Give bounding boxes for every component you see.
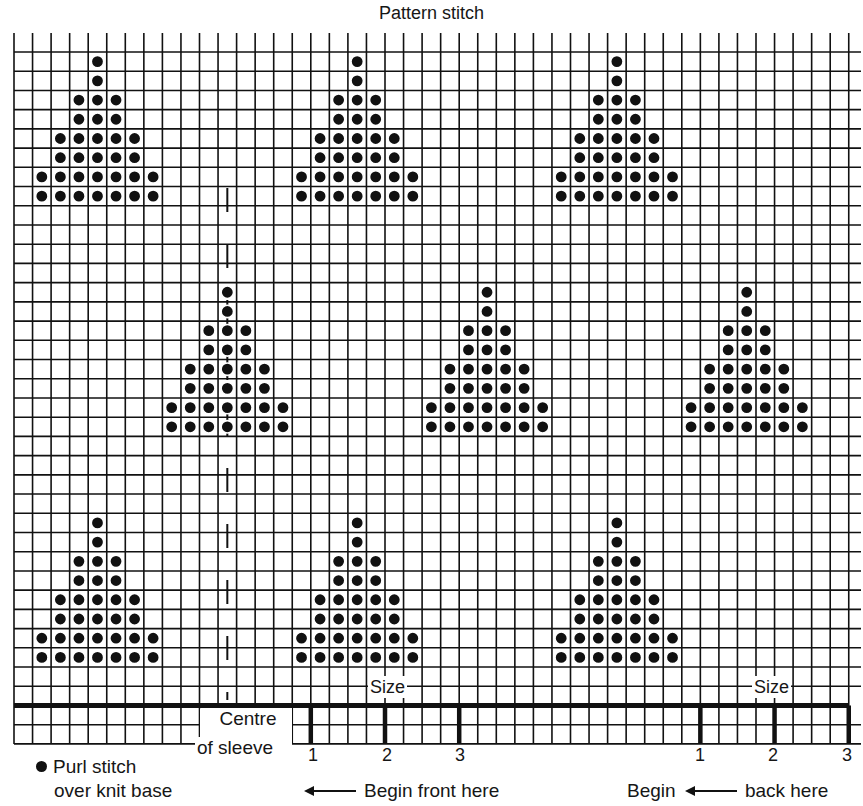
purl-stitch-dot (128, 171, 140, 183)
purl-stitch-dot (388, 132, 400, 144)
purl-stitch-dot (91, 75, 103, 87)
begin-back-text-2: back here (745, 780, 828, 801)
size-number-back-1: 1 (695, 744, 705, 766)
purl-stitch-dot (648, 632, 660, 644)
purl-stitch-dot (258, 382, 270, 394)
purl-stitch-dot (462, 421, 474, 433)
purl-stitch-dot (703, 363, 715, 375)
purl-stitch-dot (240, 382, 252, 394)
purl-stitch-dot (444, 401, 456, 413)
purl-stitch-dot (518, 421, 530, 433)
purl-stitch-dot (518, 382, 530, 394)
purl-stitch-dot (499, 382, 511, 394)
purl-stitch-dot (203, 401, 215, 413)
purl-stitch-dot (91, 536, 103, 548)
purl-stitch-dot (351, 171, 363, 183)
purl-stitch-dot (703, 421, 715, 433)
purl-stitch-dot (555, 651, 567, 663)
purl-stitch-dot (258, 421, 270, 433)
purl-stitch-dot (91, 152, 103, 164)
purl-stitch-dot (91, 555, 103, 567)
purl-stitch-dot (778, 401, 790, 413)
purl-stitch-dot (481, 344, 493, 356)
purl-dot-icon (36, 761, 47, 772)
purl-stitch-dot (351, 152, 363, 164)
purl-stitch-dot (73, 555, 85, 567)
purl-stitch-dot (221, 401, 233, 413)
purl-stitch-dot (110, 632, 122, 644)
purl-stitch-dot (759, 421, 771, 433)
purl-stitch-dot (128, 632, 140, 644)
purl-stitch-dot (91, 632, 103, 644)
purl-stitch-dot (370, 613, 382, 625)
purl-stitch-dot (203, 324, 215, 336)
purl-stitch-dot (91, 517, 103, 529)
purl-stitch-dot (499, 324, 511, 336)
purl-stitch-dot (351, 651, 363, 663)
left-arrow-icon (687, 790, 737, 792)
purl-stitch-dot (110, 152, 122, 164)
purl-stitch-dot (110, 651, 122, 663)
purl-stitch-dot (351, 632, 363, 644)
purl-stitch-dot (574, 594, 586, 606)
purl-stitch-dot (555, 190, 567, 202)
purl-stitch-dot (629, 113, 641, 125)
purl-stitch-dot (499, 401, 511, 413)
purl-stitch-dot (370, 152, 382, 164)
purl-stitch-dot (370, 94, 382, 106)
purl-stitch-dot (165, 421, 177, 433)
purl-stitch-dot (555, 632, 567, 644)
purl-stitch-dot (221, 363, 233, 375)
purl-stitch-dot (611, 132, 623, 144)
purl-stitch-dot (128, 613, 140, 625)
purl-stitch-dot (574, 190, 586, 202)
purl-stitch-dot (741, 382, 753, 394)
purl-stitch-dot (741, 344, 753, 356)
purl-stitch-dot (388, 171, 400, 183)
purl-stitch-dot (54, 171, 66, 183)
purl-stitch-dot (574, 171, 586, 183)
purl-stitch-dot (351, 555, 363, 567)
purl-stitch-dot (203, 344, 215, 356)
purl-stitch-dot (481, 363, 493, 375)
purl-stitch-dot (351, 574, 363, 586)
purl-stitch-dot (147, 632, 159, 644)
purl-stitch-dot (54, 632, 66, 644)
size-label-back: Size (752, 676, 791, 698)
purl-stitch-dot (666, 632, 678, 644)
purl-stitch-dot (444, 363, 456, 375)
purl-stitch-dot (147, 171, 159, 183)
purl-stitch-dot (221, 421, 233, 433)
purl-stitch-dot (221, 286, 233, 298)
purl-stitch-dot (184, 401, 196, 413)
purl-stitch-dot (91, 190, 103, 202)
purl-stitch-dot (110, 190, 122, 202)
purl-stitch-dot (370, 555, 382, 567)
purl-stitch-dot (203, 421, 215, 433)
purl-stitch-dot (110, 94, 122, 106)
purl-stitch-dot (592, 190, 604, 202)
purl-stitch-dot (592, 555, 604, 567)
purl-stitch-dot (351, 132, 363, 144)
purl-stitch-dot (240, 324, 252, 336)
size-number-front-2: 2 (382, 744, 392, 766)
purl-stitch-dot (481, 324, 493, 336)
purl-stitch-dot (240, 344, 252, 356)
purl-stitch-dot (277, 401, 289, 413)
purl-stitch-dot (370, 594, 382, 606)
purl-stitch-dot (36, 632, 48, 644)
purl-stitch-dot (574, 651, 586, 663)
chart-title: Pattern stitch (0, 2, 863, 24)
purl-stitch-dot (332, 555, 344, 567)
purl-stitch-dot (351, 55, 363, 67)
purl-stitch-dot (351, 613, 363, 625)
purl-stitch-dot (314, 190, 326, 202)
purl-stitch-dot (36, 190, 48, 202)
purl-stitch-dot (759, 324, 771, 336)
purl-stitch-dot (110, 613, 122, 625)
purl-stitch-dot (110, 574, 122, 586)
begin-back-text-1: Begin (627, 780, 676, 801)
purl-stitch-dot (36, 651, 48, 663)
purl-stitch-dot (54, 190, 66, 202)
purl-stitch-dot (592, 651, 604, 663)
